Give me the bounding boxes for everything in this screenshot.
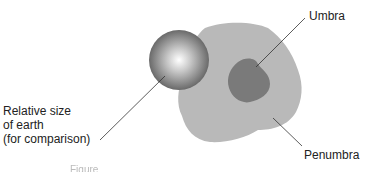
- earth-leader-line: [100, 76, 165, 140]
- figure-caption-partial: Figure: [70, 164, 372, 172]
- penumbra-leader-line: [273, 118, 302, 146]
- diagram-canvas: [0, 0, 372, 172]
- earth-label-line1: Relative size: [3, 104, 71, 118]
- penumbra-label: Penumbra: [304, 148, 359, 162]
- umbra-label: Umbra: [309, 9, 345, 23]
- earth-label-line2: of earth: [3, 118, 44, 132]
- earth-sphere: [149, 30, 209, 90]
- earth-label-line3: (for comparison): [3, 132, 90, 146]
